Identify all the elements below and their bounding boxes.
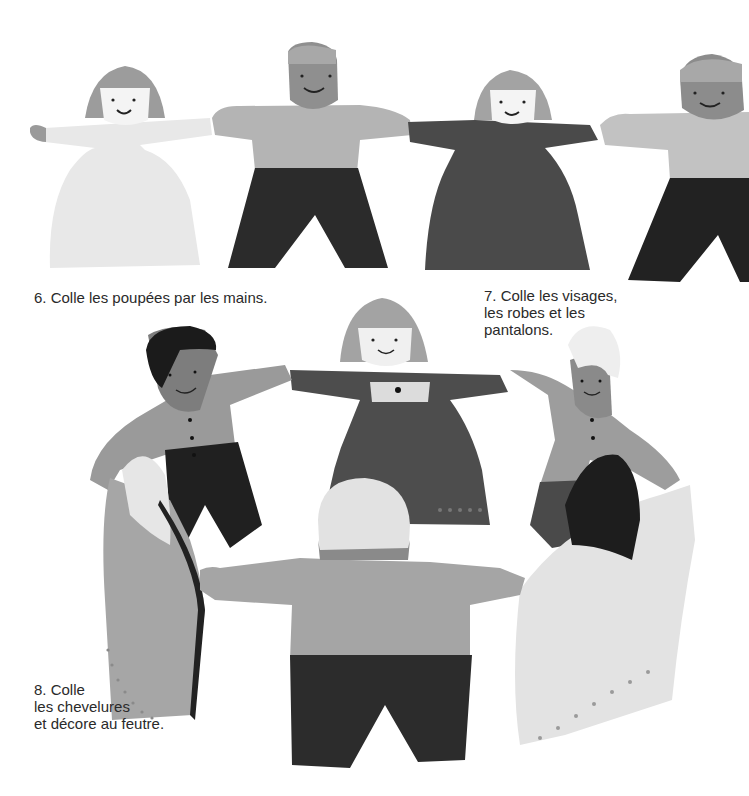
ring-doll-girl-center: [290, 298, 508, 525]
step-6-text: 6. Colle les poupées par les mains.: [34, 289, 267, 306]
doll-boy-cutoff: [600, 54, 749, 282]
paper-dolls-illustration: [0, 0, 749, 796]
step-8-line-3: et décore au feutre.: [34, 715, 214, 732]
step-8-caption: 8. Colle les chevelures et décore au feu…: [34, 681, 214, 732]
step-7-caption: 7. Colle les visages, les robes et les p…: [484, 287, 654, 338]
doll-girl-dark: [408, 70, 598, 270]
step-8-line-2: les chevelures: [34, 698, 214, 715]
step-6-caption: 6. Colle les poupées par les mains.: [34, 289, 267, 306]
doll-chain: [30, 42, 749, 282]
doll-boy-grey: [212, 42, 412, 268]
step-7-line-2: les robes et les: [484, 304, 654, 321]
step-7-line-3: pantalons.: [484, 321, 654, 338]
doll-girl-white: [30, 66, 212, 268]
step-8-line-1: 8. Colle: [34, 681, 214, 698]
step-7-line-1: 7. Colle les visages,: [484, 287, 654, 304]
